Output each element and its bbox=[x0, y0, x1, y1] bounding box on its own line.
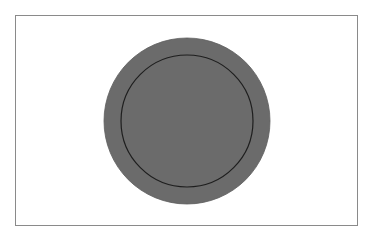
concentric-circles-diagram bbox=[0, 0, 371, 238]
figure-canvas bbox=[0, 0, 371, 238]
outer-filled-circle bbox=[104, 38, 270, 204]
